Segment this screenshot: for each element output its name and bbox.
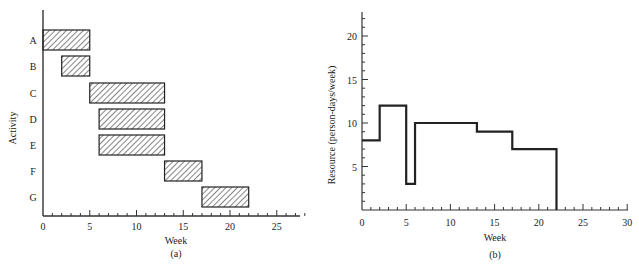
gantt-bar-g <box>202 187 249 207</box>
y-axis-label: Resource (person-days/week) <box>326 66 338 185</box>
activity-label: A <box>29 35 37 46</box>
y-axis-label: Activity <box>7 112 18 145</box>
gantt-bar-c <box>90 83 165 103</box>
tick-label: 15 <box>178 221 188 232</box>
tick-label: 30 <box>622 217 632 228</box>
activity-label: B <box>30 61 37 72</box>
tick-label: 10 <box>445 217 455 228</box>
tick-label: 0 <box>360 217 365 228</box>
figure: 0510152025 ABCDEFG Week (a) Activity 051… <box>0 0 639 271</box>
gantt-bar-a <box>43 30 90 50</box>
tick-label: 20 <box>225 221 235 232</box>
activity-label: F <box>30 166 36 177</box>
y-tick-labels: 5101520 <box>347 31 357 173</box>
panel-caption: (a) <box>170 248 181 260</box>
activity-label: E <box>30 140 36 151</box>
y-ticks <box>362 19 368 202</box>
tick-label: 10 <box>347 118 357 129</box>
panel-caption: (b) <box>489 249 501 261</box>
tick-label: 20 <box>347 31 357 42</box>
x-ticks <box>52 210 304 216</box>
gantt-bar-d <box>99 109 164 129</box>
x-tick-labels: 0510152025 <box>41 221 282 232</box>
tick-label: 15 <box>490 217 500 228</box>
x-tick-labels: 051015202530 <box>360 217 633 228</box>
tick-label: 25 <box>272 221 282 232</box>
activity-label: C <box>30 88 37 99</box>
resource-step-line <box>362 106 556 210</box>
gantt-bar-b <box>62 56 90 76</box>
tick-label: 5 <box>404 217 409 228</box>
tick-label: 5 <box>352 162 357 173</box>
tick-label: 5 <box>87 221 92 232</box>
gantt-bar-f <box>165 161 202 181</box>
gantt-bars <box>43 30 249 207</box>
activity-label: D <box>29 114 36 125</box>
tick-label: 20 <box>534 217 544 228</box>
x-axis-label: Week <box>484 232 507 243</box>
gantt-chart: 0510152025 ABCDEFG Week (a) Activity <box>7 10 305 260</box>
resource-chart: 051015202530 5101520 Week (b) Resource (… <box>326 12 632 261</box>
x-ticks <box>371 204 627 210</box>
tick-label: 15 <box>347 75 357 86</box>
tick-label: 10 <box>132 221 142 232</box>
gantt-bar-e <box>99 135 164 155</box>
activity-labels: ABCDEFG <box>29 35 37 203</box>
x-axis-label: Week <box>165 235 188 246</box>
tick-label: 25 <box>578 217 588 228</box>
tick-label: 0 <box>41 221 46 232</box>
activity-label: G <box>29 192 36 203</box>
